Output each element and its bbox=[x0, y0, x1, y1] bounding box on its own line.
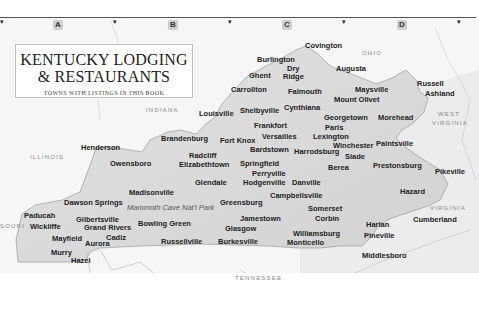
town-label: Prestonsburg bbox=[373, 161, 422, 170]
town-label: Monticello bbox=[287, 238, 324, 247]
region-label: TENNESSEE bbox=[235, 275, 282, 281]
town-label: Carrollton bbox=[231, 85, 267, 94]
map-title-line2: & RESTAURANTS bbox=[16, 68, 192, 85]
region-label: WEST bbox=[438, 111, 460, 117]
town-label: Elizabethtown bbox=[179, 160, 229, 169]
town-label: Mount Olivet bbox=[334, 95, 379, 104]
town-label: Corbin bbox=[315, 214, 339, 223]
town-label: Hazel bbox=[71, 256, 91, 265]
town-label: Mayfield bbox=[52, 234, 82, 243]
town-label: Maysville bbox=[355, 85, 388, 94]
grid-column-a: A bbox=[53, 20, 63, 30]
town-label: Aurora bbox=[85, 239, 110, 248]
grid-tick-icon: ▾ bbox=[342, 18, 346, 25]
grid-column-c: C bbox=[282, 20, 292, 30]
town-label: Danville bbox=[292, 178, 321, 187]
town-label: Georgetown bbox=[324, 113, 368, 122]
grid-tick-icon: ▾ bbox=[228, 18, 232, 25]
park-label: Mammoth Cave Nat'l Park bbox=[127, 203, 214, 212]
grid-tick-icon: ▾ bbox=[457, 18, 461, 25]
town-label: Brandenburg bbox=[161, 134, 208, 143]
town-label: Burlington bbox=[257, 55, 295, 64]
town-label: Slade bbox=[345, 152, 365, 161]
town-label: Lexington bbox=[313, 132, 349, 141]
town-label: Falmouth bbox=[288, 87, 322, 96]
town-label: Pineville bbox=[364, 231, 394, 240]
grid-tick-icon: ▾ bbox=[0, 18, 4, 25]
town-label: Augusta bbox=[336, 64, 366, 73]
town-label: Henderson bbox=[81, 143, 120, 152]
town-label: Cumberland bbox=[413, 215, 457, 224]
map-title-box: KENTUCKY LODGING & RESTAURANTS TOWNS WIT… bbox=[15, 44, 193, 98]
town-label: Ghent bbox=[249, 71, 271, 80]
town-label: Somerset bbox=[308, 204, 342, 213]
town-label: Glendale bbox=[195, 178, 227, 187]
town-label: Springfield bbox=[240, 159, 279, 168]
town-label: Paintsville bbox=[376, 139, 413, 148]
town-label: Hazard bbox=[400, 187, 425, 196]
town-label: Paducah bbox=[24, 211, 55, 220]
town-label: Grand Rivers bbox=[84, 223, 131, 232]
town-label: Owensboro bbox=[110, 159, 151, 168]
town-label: Middlesboro bbox=[362, 251, 407, 260]
grid-column-b: B bbox=[168, 20, 178, 30]
town-label: Pikeville bbox=[435, 167, 465, 176]
town-label: Frankfort bbox=[254, 121, 287, 130]
region-label: SOURI bbox=[0, 223, 25, 229]
town-label: Morehead bbox=[378, 113, 413, 122]
grid-top-line bbox=[0, 17, 476, 18]
region-label: ILLINOIS bbox=[30, 154, 64, 160]
town-label: Bowling Green bbox=[138, 219, 191, 228]
town-label: Burkesville bbox=[218, 237, 258, 246]
town-label: Madisonville bbox=[129, 188, 174, 197]
town-label: Glasgow bbox=[225, 224, 256, 233]
region-label: INDIANA bbox=[146, 107, 179, 113]
town-label: Greensburg bbox=[220, 198, 263, 207]
map-subtitle: TOWNS WITH LISTINGS IN THIS BOOK bbox=[16, 90, 192, 96]
town-label: Jamestown bbox=[240, 214, 281, 223]
town-label: Bardstown bbox=[250, 145, 289, 154]
grid-column-d: D bbox=[397, 20, 407, 30]
town-label: Cynthiana bbox=[284, 103, 320, 112]
town-label: Murry bbox=[51, 248, 72, 257]
town-label: Hodgenville bbox=[243, 178, 286, 187]
grid-tick-icon: ▾ bbox=[113, 18, 117, 25]
town-label: Shelbyville bbox=[240, 106, 279, 115]
town-label: Russellville bbox=[161, 237, 202, 246]
town-label: Harlan bbox=[366, 220, 389, 229]
town-label: Dawson Springs bbox=[64, 198, 123, 207]
town-label: Harrodsburg bbox=[294, 147, 339, 156]
town-label: Russell bbox=[417, 79, 444, 88]
town-label: Perryville bbox=[252, 169, 286, 178]
town-label: Covington bbox=[305, 41, 342, 50]
map-title-line1: KENTUCKY LODGING bbox=[16, 51, 192, 68]
town-label: Paris bbox=[325, 123, 343, 132]
town-label: Ridge bbox=[283, 72, 304, 81]
region-label: VIRGINIA bbox=[432, 120, 468, 126]
town-label: Wickliffe bbox=[30, 222, 61, 231]
town-label: Campbellsville bbox=[270, 191, 323, 200]
town-label: Ashland bbox=[425, 89, 455, 98]
town-label: Williamsburg bbox=[293, 229, 340, 238]
town-label: Radcliff bbox=[189, 151, 217, 160]
town-label: Berea bbox=[328, 163, 349, 172]
town-label: Versailles bbox=[262, 132, 297, 141]
town-label: Louisville bbox=[199, 109, 234, 118]
region-label: VIRGINIA bbox=[430, 205, 466, 211]
region-label: OHIO bbox=[362, 50, 382, 56]
town-label: Fort Knox bbox=[220, 136, 255, 145]
